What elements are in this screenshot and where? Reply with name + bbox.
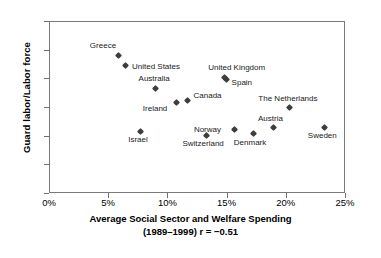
data-point-label: Australia <box>139 74 170 83</box>
x-tick-label: 15% <box>197 197 257 208</box>
data-point-label: Norway <box>194 125 221 134</box>
x-tick-label: 25% <box>315 197 375 208</box>
x-tick-label: 10% <box>137 197 197 208</box>
x-tick-mark <box>227 193 228 198</box>
data-point-label: Sweden <box>308 131 337 140</box>
x-axis-title-line1: Average Social Sector and Welfare Spendi… <box>89 213 291 224</box>
data-point-label: The Netherlands <box>258 94 317 103</box>
x-tick-mark <box>108 193 109 198</box>
data-point-label: Israel <box>128 135 148 144</box>
data-point-label: United States <box>132 62 180 71</box>
y-tick-mark <box>44 193 49 194</box>
y-axis-title: Guard labor/Labor force <box>21 8 32 188</box>
x-tick-mark <box>286 193 287 198</box>
data-point-label: Austria <box>258 114 283 123</box>
data-point-label: Denmark <box>234 138 266 147</box>
x-axis-title-line2: (1989–1999) r = −0.51 <box>0 225 381 238</box>
x-axis-title: Average Social Sector and Welfare Spendi… <box>0 212 381 238</box>
x-tick-label: 5% <box>78 197 138 208</box>
data-point-label: Ireland <box>143 104 167 113</box>
data-point-label: Greece <box>90 41 116 50</box>
data-point-label: Spain <box>232 78 252 87</box>
data-point-label: United Kingdom <box>208 63 265 72</box>
data-point-label: Switzerland <box>182 139 223 148</box>
x-tick-mark <box>167 193 168 198</box>
data-point-label: Canada <box>194 91 222 100</box>
x-tick-label: 0% <box>19 197 79 208</box>
scatter-chart-figure: Guard labor/Labor force 0%5%10%15%20%25%… <box>0 0 381 258</box>
x-tick-mark <box>345 193 346 198</box>
x-tick-label: 20% <box>256 197 316 208</box>
